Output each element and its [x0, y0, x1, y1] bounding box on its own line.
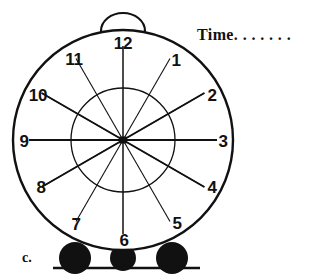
- clock-hour-label-3: 3: [218, 133, 227, 150]
- clock-hour-label-6: 6: [119, 232, 128, 249]
- clock-hour-label-4: 4: [207, 179, 216, 196]
- clock-hour-label-12: 12: [114, 35, 132, 52]
- clock-hour-label-1: 1: [171, 52, 180, 69]
- item-letter-label: c.: [22, 251, 32, 265]
- clock-hour-label-5: 5: [172, 215, 181, 232]
- time-answer-prompt: Time. . . . . . .: [197, 27, 291, 43]
- clock-hour-label-10: 10: [29, 87, 47, 104]
- clock-hour-label-11: 11: [65, 51, 82, 68]
- worksheet-clock-figure: 121234567891011 Time. . . . . . . c.: [0, 0, 309, 280]
- clock-hour-label-7: 7: [71, 216, 80, 233]
- clock-hour-label-8: 8: [36, 179, 45, 196]
- clock-hour-label-9: 9: [19, 133, 28, 150]
- clock-center-hub: [120, 137, 127, 144]
- clock-hour-label-2: 2: [207, 87, 216, 104]
